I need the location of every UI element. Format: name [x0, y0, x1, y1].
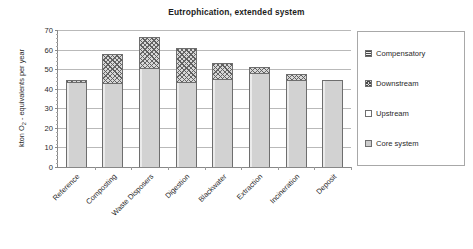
solid-gray-swatch-icon	[365, 140, 372, 147]
x-axis-labels: ReferenceCompostingWaste DisposersDigest…	[57, 170, 350, 240]
x-axis-label-slot: Reference	[57, 170, 94, 240]
bar-digestion[interactable]	[176, 48, 197, 167]
y-axis-tick-label: 40	[45, 84, 53, 93]
y-axis-tick-label: 10	[45, 143, 53, 152]
y-axis-tick-label: 50	[45, 65, 53, 74]
bar-slot	[95, 30, 132, 167]
bar-waste-disposers[interactable]	[139, 37, 160, 167]
bar-extraction[interactable]	[249, 67, 270, 167]
bar-slot	[131, 30, 168, 167]
cross-hatch-swatch-icon	[365, 80, 372, 87]
legend-item-core-system[interactable]: Core system	[365, 139, 464, 148]
bar-segment-core-system	[286, 80, 307, 167]
legend-label: Compensatory	[376, 49, 425, 58]
y-axis-tick-label: 0	[49, 163, 53, 172]
bar-blackwater[interactable]	[212, 63, 233, 167]
x-axis-label-slot: Extraction	[240, 170, 277, 240]
bar-slot	[58, 30, 95, 167]
x-axis-label-deposit: Deposit	[314, 172, 338, 196]
legend-label: Upstream	[376, 109, 409, 118]
legend-item-downstream[interactable]: Downstream	[365, 79, 464, 88]
y-axis-tick-label: 60	[45, 45, 53, 54]
bar-segment-core-system	[66, 82, 87, 167]
bar-segment-core-system	[212, 79, 233, 167]
bar-segment-core-system	[249, 73, 270, 167]
bar-slot	[205, 30, 242, 167]
chart-title: Eutrophication, extended system	[0, 7, 473, 17]
bar-segment-downstream	[212, 63, 233, 79]
empty-white-swatch-icon	[365, 110, 372, 117]
bar-reference[interactable]	[66, 80, 87, 167]
bar-composting[interactable]	[102, 54, 123, 168]
x-axis-label-slot: Digestion	[167, 170, 204, 240]
legend-item-compensatory[interactable]: Compensatory	[365, 49, 464, 58]
x-axis-label-reference: Reference	[51, 172, 81, 202]
chart-container: Eutrophication, extended system kton O2 …	[0, 0, 473, 249]
x-axis-label-slot: Waste Disposers	[130, 170, 167, 240]
bar-slot	[241, 30, 278, 167]
bar-segment-downstream	[176, 48, 197, 82]
bar-segment-downstream	[139, 37, 160, 68]
legend-label: Core system	[376, 139, 419, 148]
y-axis-label: kton O2 - equivalents per year	[14, 25, 28, 170]
y-axis-tick-label: 20	[45, 123, 53, 132]
x-axis-label-slot: Blackwater	[204, 170, 241, 240]
y-axis-label-text: kton O2 - equivalents per year	[17, 48, 26, 146]
x-axis-tick-mark	[351, 167, 352, 170]
legend-label: Downstream	[376, 79, 419, 88]
bar-slot	[168, 30, 205, 167]
y-axis-tick-label: 30	[45, 104, 53, 113]
legend: CompensatoryDownstreamUpstreamCore syste…	[357, 31, 465, 166]
plot-area: 010203040506070	[57, 30, 351, 168]
x-axis-label-extraction: Extraction	[235, 172, 265, 202]
bar-segment-core-system	[176, 82, 197, 167]
bar-segment-core-system	[139, 68, 160, 167]
bar-segment-downstream	[102, 54, 123, 83]
x-axis-label-slot: Incineration	[277, 170, 314, 240]
y-axis-tick-label: 70	[45, 26, 53, 35]
bar-slot	[278, 30, 315, 167]
bar-group	[58, 30, 351, 167]
x-axis-label-digestion: Digestion	[163, 172, 191, 200]
horizontal-lines-swatch-icon	[365, 50, 372, 57]
bar-slot	[314, 30, 351, 167]
bar-segment-core-system	[102, 83, 123, 167]
y-axis-label-post: - equivalents per year	[17, 48, 26, 121]
bar-segment-core-system	[322, 80, 343, 167]
y-axis-label-subscript: 2	[20, 122, 26, 125]
y-axis-label-pre: kton O	[17, 125, 26, 147]
legend-item-upstream[interactable]: Upstream	[365, 109, 464, 118]
x-axis-label-slot: Deposit	[313, 170, 350, 240]
bar-deposit[interactable]	[322, 80, 343, 167]
bar-incineration[interactable]	[286, 74, 307, 167]
